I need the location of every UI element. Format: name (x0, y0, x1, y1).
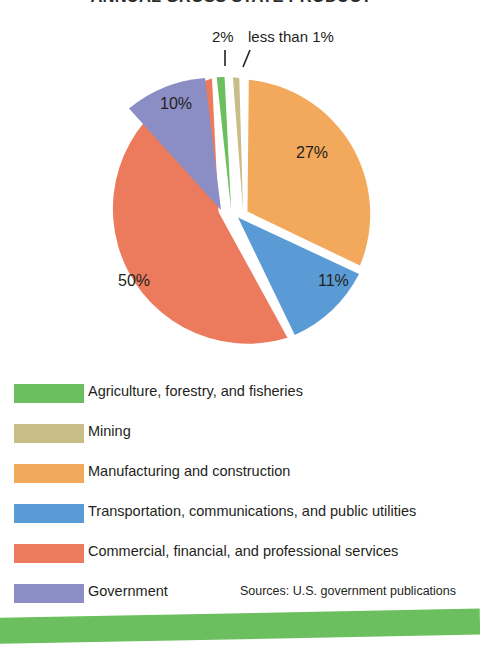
legend-label-manufacturing: Manufacturing and construction (88, 463, 290, 479)
leader-line-mining (243, 50, 250, 67)
legend-label-commercial: Commercial, financial, and professional … (88, 543, 398, 559)
legend-item-agriculture[interactable]: Agriculture, forestry, and fisheries (0, 378, 462, 418)
callout-agriculture-percent: 2% (212, 28, 234, 45)
pie-slice-agriculture[interactable] (217, 77, 231, 210)
legend-label-transportation: Transportation, communications, and publ… (88, 503, 416, 519)
legend-label-mining: Mining (88, 423, 131, 439)
chart-legend: Agriculture, forestry, and fisheries Min… (0, 378, 462, 618)
slice-value-government: 10% (160, 95, 192, 113)
legend-label-government: Government (88, 583, 168, 599)
pie-slice-mining[interactable] (233, 77, 243, 210)
source-note: Sources: U.S. government publications (240, 584, 456, 598)
legend-item-mining[interactable]: Mining (0, 418, 462, 458)
callout-mining-percent: less than 1% (248, 28, 334, 45)
slice-value-transportation: 11% (318, 272, 349, 290)
slice-value-manufacturing: 27% (296, 144, 328, 162)
legend-item-commercial[interactable]: Commercial, financial, and professional … (0, 538, 462, 578)
slice-value-commercial: 50% (118, 272, 150, 290)
color-swatch-transportation (14, 504, 84, 523)
legend-item-manufacturing[interactable]: Manufacturing and construction (0, 458, 462, 498)
color-swatch-agriculture (14, 384, 84, 403)
legend-label-agriculture: Agriculture, forestry, and fisheries (88, 383, 303, 399)
color-swatch-manufacturing (14, 464, 84, 483)
pie-chart-figure: 2% less than 1% 27% 11% 50% 10% (0, 0, 462, 380)
pie-chart-svg (0, 0, 462, 380)
color-swatch-government (14, 584, 84, 603)
legend-item-transportation[interactable]: Transportation, communications, and publ… (0, 498, 462, 538)
color-swatch-mining (14, 424, 84, 443)
color-swatch-commercial (14, 544, 84, 563)
